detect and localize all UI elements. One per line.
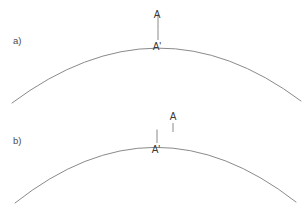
panel-label-b: b) — [13, 135, 21, 146]
surface-arc-b — [15, 147, 296, 203]
marker-A-label: A — [170, 111, 177, 122]
surface-arc-a — [12, 48, 301, 103]
figure-container: A A' a) A A' b) — [0, 0, 308, 208]
marker-A-prime-label: A' — [153, 41, 162, 52]
panel-a-group: A A' a) — [12, 9, 301, 103]
marker-A-prime-label: A' — [152, 144, 161, 155]
panel-b-group: A A' b) — [13, 111, 296, 203]
panel-label-a: a) — [13, 35, 21, 46]
marker-A-label: A — [154, 9, 161, 20]
arc-displacement-diagram: A A' a) A A' b) — [0, 0, 308, 208]
